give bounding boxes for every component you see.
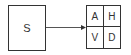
grid-cell-h: H	[104, 6, 121, 27]
grid-cell-v: V	[87, 27, 104, 48]
grid-cell-a: A	[87, 6, 104, 27]
grid-cell-d: D	[104, 27, 121, 48]
output-grid: A H V D	[86, 5, 121, 49]
